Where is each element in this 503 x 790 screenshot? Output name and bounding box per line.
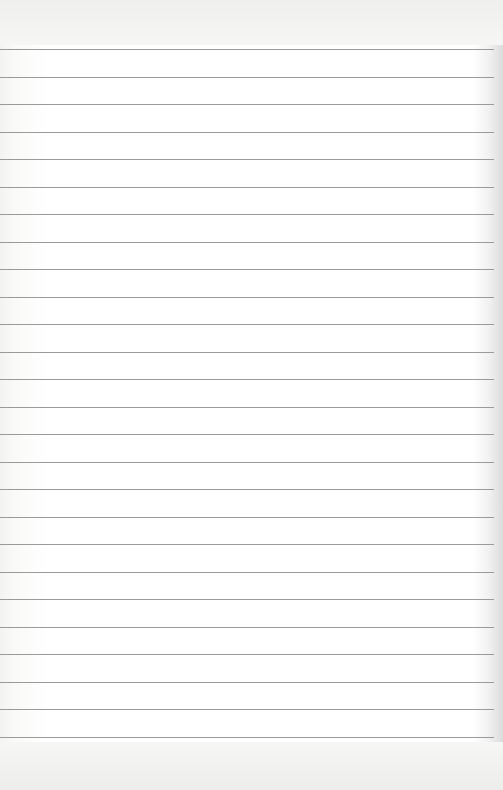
ruled-line <box>0 297 494 298</box>
ruled-line <box>0 214 494 215</box>
ruled-line <box>0 682 494 683</box>
ruled-line <box>0 517 494 518</box>
ruled-line <box>0 709 494 710</box>
bottom-margin <box>0 742 503 790</box>
ruled-line <box>0 77 494 78</box>
top-margin <box>0 0 503 45</box>
ruled-line <box>0 572 494 573</box>
ruled-line <box>0 379 494 380</box>
ruled-line <box>0 49 494 50</box>
ruled-line <box>0 462 494 463</box>
ruled-line <box>0 627 494 628</box>
ruled-line <box>0 159 494 160</box>
ruled-line <box>0 544 494 545</box>
ruled-line <box>0 599 494 600</box>
ruled-line <box>0 187 494 188</box>
ruled-line <box>0 737 494 738</box>
ruled-line <box>0 654 494 655</box>
ruled-line <box>0 434 494 435</box>
ruled-line <box>0 269 494 270</box>
ruled-line <box>0 489 494 490</box>
ruled-line <box>0 352 494 353</box>
ruled-line <box>0 242 494 243</box>
ruled-line <box>0 407 494 408</box>
ruled-line <box>0 132 494 133</box>
ruled-line <box>0 104 494 105</box>
lined-paper <box>0 0 503 790</box>
ruled-line <box>0 324 494 325</box>
